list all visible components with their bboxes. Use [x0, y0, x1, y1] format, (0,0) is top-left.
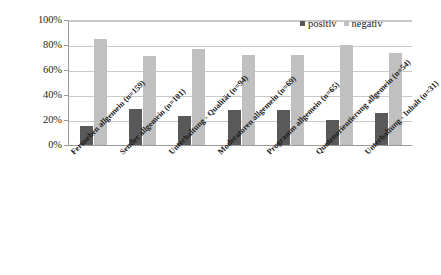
y-axis-tick-label: 40% [2, 90, 62, 100]
gridline [69, 46, 412, 47]
y-axis-tick-label: 60% [2, 65, 62, 75]
legend-item-negativ: negativ [344, 18, 383, 29]
y-axis-tick-mark [64, 45, 68, 46]
y-axis-tick-mark [64, 145, 68, 146]
gridline [69, 121, 412, 122]
y-axis-tick-mark [64, 95, 68, 96]
legend-label-negativ: negativ [352, 18, 383, 29]
y-axis-tick-mark [64, 70, 68, 71]
y-axis-tick-mark [64, 20, 68, 21]
legend-item-positiv: positiv [300, 18, 337, 29]
legend-swatch-positiv-icon [300, 21, 305, 26]
chart-legend: positiv negativ [300, 18, 383, 29]
x-axis-line [64, 145, 412, 146]
legend-label-positiv: positiv [308, 18, 337, 29]
y-axis-tick-label: 100% [2, 15, 62, 25]
y-axis-tick-label: 80% [2, 40, 62, 50]
y-axis-tick-label: 0% [2, 140, 62, 150]
y-axis-tick-label: 20% [2, 115, 62, 125]
legend-swatch-negativ-icon [344, 21, 349, 26]
gridline [69, 71, 412, 72]
y-axis-tick-mark [64, 120, 68, 121]
